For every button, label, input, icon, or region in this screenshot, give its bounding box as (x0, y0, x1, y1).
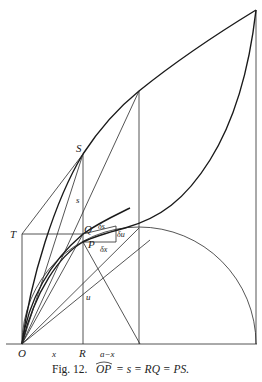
figure-caption-prefix: Fig. 12. (52, 363, 88, 376)
label-delta-x: δx (100, 245, 108, 254)
label-Q: Q (84, 223, 92, 235)
label-delta-s: δs (98, 222, 105, 231)
label-T: T (10, 228, 17, 240)
label-u: u (86, 292, 91, 302)
label-O: O (18, 347, 26, 359)
label-x: x (51, 349, 56, 359)
line-O-uppermid (22, 91, 139, 344)
figure-caption-arc: OP (96, 363, 111, 375)
inner-curve (22, 208, 130, 344)
line-O-circletop (22, 228, 139, 344)
line-OQ (22, 234, 83, 344)
label-a-minus-x: a−x (100, 349, 115, 359)
label-R: R (78, 347, 86, 359)
label-delta-u: δu (117, 230, 125, 239)
label-P: P (87, 238, 95, 250)
geometry-figure: S T Q P s u δs δu δx O x R a−x Fig. 12. … (0, 0, 262, 382)
label-s: s (76, 195, 80, 205)
line-P-foot (83, 242, 140, 344)
figure-caption-rest: = s = RQ = PS. (116, 363, 189, 375)
label-S: S (76, 142, 82, 154)
